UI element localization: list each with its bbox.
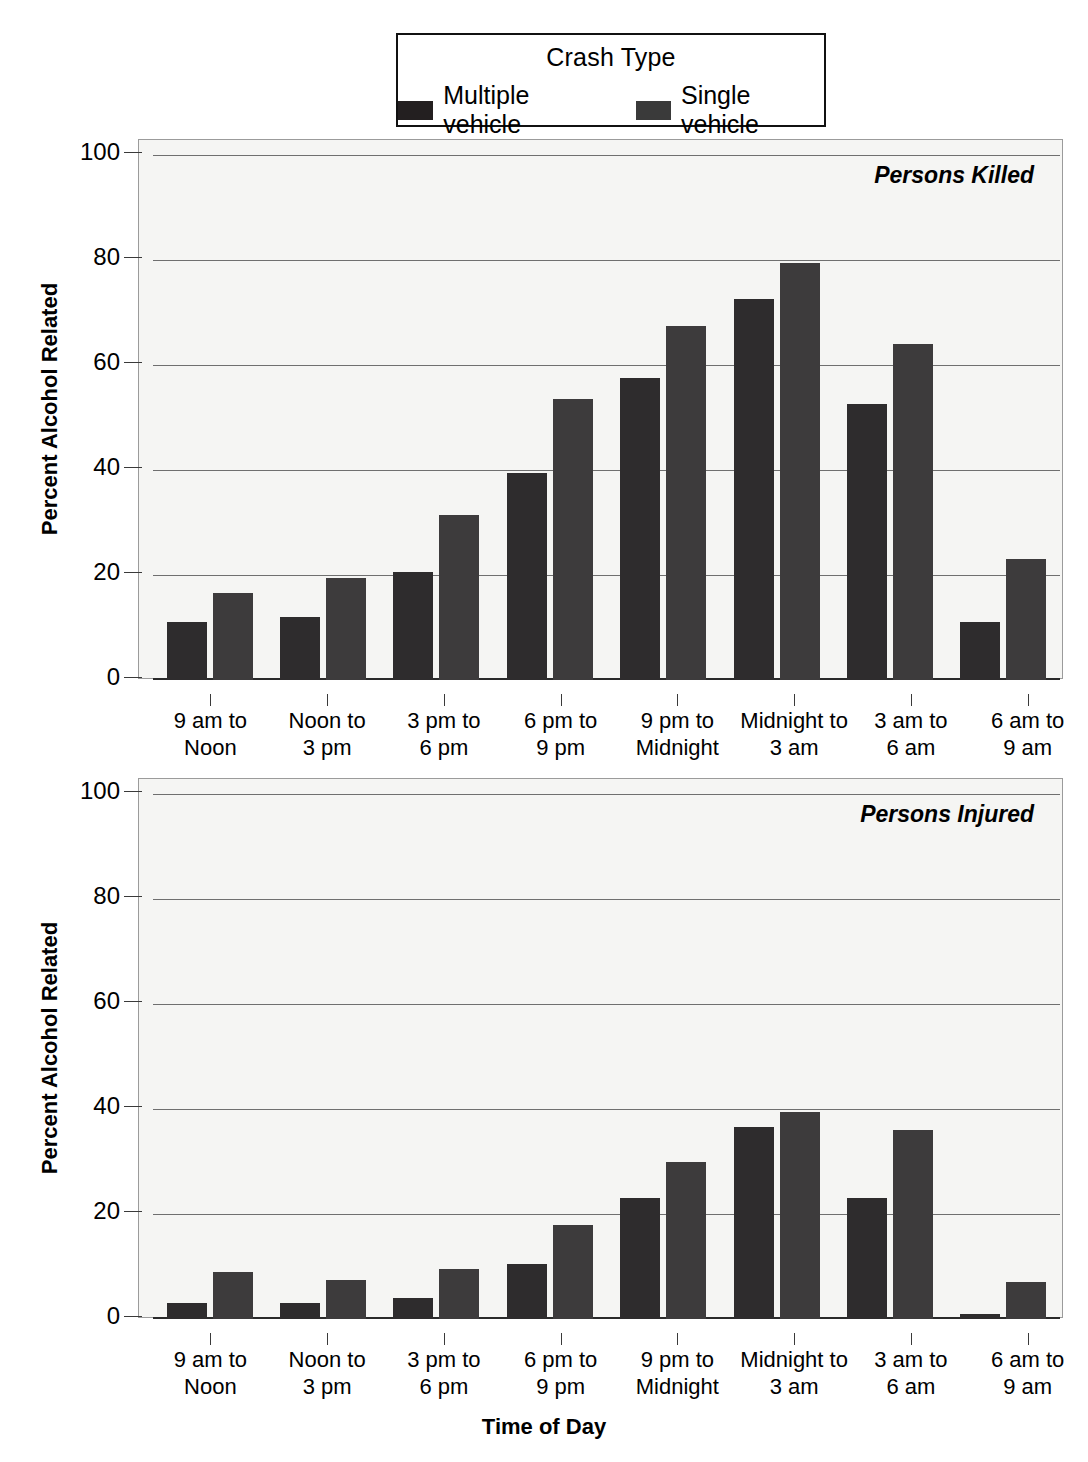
bar-injured-6-single-vehicle: [893, 1130, 933, 1319]
x-axis-labels-injured: 9 am toNoonNoon to3 pm3 pm to6 pm6 pm to…: [152, 1346, 1086, 1400]
x-axis-label-line1: Noon to: [269, 1346, 386, 1373]
bar-injured-1-single-vehicle: [326, 1280, 366, 1319]
bar-injured-7-multiple-vehicle: [960, 1314, 1000, 1319]
y-axis-label-killed: Percent Alcohol Related: [37, 283, 63, 535]
bar-group-killed-4: [607, 155, 720, 680]
bar-killed-2-multiple-vehicle: [393, 572, 433, 680]
bar-group-killed-3: [493, 155, 606, 680]
x-axis-label-line2: 3 am: [736, 1373, 853, 1400]
x-axis-label-line2: 9 pm: [502, 734, 619, 761]
bar-killed-0-single-vehicle: [213, 593, 253, 680]
x-axis-label-line1: 3 pm to: [386, 707, 503, 734]
x-axis-label-line1: 3 am to: [853, 707, 970, 734]
bar-injured-4-single-vehicle: [666, 1162, 706, 1320]
x-axis-label-line1: 3 pm to: [386, 1346, 503, 1373]
y-tick-dash-20-injured: [124, 1211, 142, 1212]
x-tick-mark-injured-0: [210, 1333, 211, 1345]
x-axis-label-line2: 3 pm: [269, 734, 386, 761]
bar-killed-1-single-vehicle: [326, 578, 366, 680]
x-tick-killed-0: [152, 694, 269, 706]
x-tick-killed-5: [736, 694, 853, 706]
x-tick-mark-killed-6: [911, 694, 912, 706]
x-axis-label-line2: 9 am: [969, 734, 1086, 761]
y-tick-dash-20-killed: [124, 572, 142, 573]
bar-killed-1-multiple-vehicle: [280, 617, 320, 680]
y-axis-label-wrap-killed: Percent Alcohol Related: [30, 139, 70, 679]
x-tick-mark-killed-3: [561, 694, 562, 706]
legend-entries: Multiple vehicle Single vehicle: [398, 81, 824, 139]
x-axis-label-killed-1: Noon to3 pm: [269, 707, 386, 761]
x-axis-label-killed-5: Midnight to3 am: [736, 707, 853, 761]
x-axis-label-injured-7: 6 am to9 am: [969, 1346, 1086, 1400]
bar-group-killed-2: [380, 155, 493, 680]
x-tick-injured-2: [386, 1333, 503, 1345]
x-axis-label-killed-4: 9 pm toMidnight: [619, 707, 736, 761]
x-tick-killed-6: [853, 694, 970, 706]
bar-group-injured-6: [833, 794, 946, 1319]
bar-group-injured-3: [493, 794, 606, 1319]
bar-group-injured-7: [947, 794, 1060, 1319]
x-axis-label-line2: 6 am: [853, 734, 970, 761]
y-tick-100-killed: 100: [0, 138, 120, 166]
y-tick-dash-0-killed: [124, 677, 142, 678]
bar-killed-7-single-vehicle: [1006, 559, 1046, 680]
x-axis-label-line1: Noon to: [269, 707, 386, 734]
bar-group-killed-6: [833, 155, 946, 680]
x-tick-killed-1: [269, 694, 386, 706]
x-tick-mark-injured-7: [1028, 1333, 1029, 1345]
bar-injured-2-multiple-vehicle: [393, 1298, 433, 1319]
bar-group-killed-7: [947, 155, 1060, 680]
x-axis-label-line2: Midnight: [619, 1373, 736, 1400]
x-axis-labels-killed: 9 am toNoonNoon to3 pm3 pm to6 pm6 pm to…: [152, 707, 1086, 761]
bar-injured-2-single-vehicle: [439, 1269, 479, 1319]
y-tick-40-injured: 40: [0, 1092, 120, 1120]
x-axis-ticks-injured: [152, 1333, 1086, 1345]
y-tick-0-killed: 0: [0, 663, 120, 691]
bar-group-injured-5: [720, 794, 833, 1319]
y-tick-dash-0-injured: [124, 1316, 142, 1317]
x-axis-label-line1: 9 am to: [152, 707, 269, 734]
legend-label-single-vehicle: Single vehicle: [681, 81, 824, 139]
x-tick-mark-killed-7: [1028, 694, 1029, 706]
bar-injured-3-multiple-vehicle: [507, 1264, 547, 1319]
x-tick-mark-killed-2: [444, 694, 445, 706]
bar-injured-5-multiple-vehicle: [734, 1127, 774, 1319]
x-tick-mark-injured-6: [911, 1333, 912, 1345]
x-axis-label-killed-6: 3 am to6 am: [853, 707, 970, 761]
bar-injured-7-single-vehicle: [1006, 1282, 1046, 1319]
x-axis-label-injured-1: Noon to3 pm: [269, 1346, 386, 1400]
x-axis-label-injured-6: 3 am to6 am: [853, 1346, 970, 1400]
x-tick-killed-4: [619, 694, 736, 706]
bar-killed-3-single-vehicle: [553, 399, 593, 680]
x-axis-label-injured-0: 9 am toNoon: [152, 1346, 269, 1400]
x-tick-killed-7: [969, 694, 1086, 706]
x-axis-label-killed-3: 6 pm to9 pm: [502, 707, 619, 761]
x-axis-label-line2: 3 pm: [269, 1373, 386, 1400]
bar-killed-6-single-vehicle: [893, 344, 933, 680]
x-tick-injured-4: [619, 1333, 736, 1345]
x-tick-mark-killed-5: [794, 694, 795, 706]
x-axis-label-line1: 9 pm to: [619, 707, 736, 734]
bar-injured-0-multiple-vehicle: [167, 1303, 207, 1319]
y-tick-80-killed: 80: [0, 243, 120, 271]
x-axis-label-line1: 6 am to: [969, 1346, 1086, 1373]
legend-swatch-single-vehicle-icon: [636, 101, 671, 120]
y-tick-0-injured: 0: [0, 1302, 120, 1330]
x-tick-killed-2: [386, 694, 503, 706]
x-tick-killed-3: [502, 694, 619, 706]
x-axis-label-killed-0: 9 am toNoon: [152, 707, 269, 761]
x-axis-label-line1: Midnight to: [736, 1346, 853, 1373]
y-tick-20-injured: 20: [0, 1197, 120, 1225]
y-tick-dash-60-injured: [124, 1001, 142, 1002]
legend-title: Crash Type: [398, 43, 824, 72]
y-tick-60-killed: 60: [0, 348, 120, 376]
x-axis-label-injured-3: 6 pm to9 pm: [502, 1346, 619, 1400]
x-axis-label-killed-7: 6 am to9 am: [969, 707, 1086, 761]
bar-killed-2-single-vehicle: [439, 515, 479, 680]
y-tick-80-injured: 80: [0, 882, 120, 910]
x-axis-label-injured-2: 3 pm to6 pm: [386, 1346, 503, 1400]
x-tick-injured-5: [736, 1333, 853, 1345]
y-tick-60-injured: 60: [0, 987, 120, 1015]
y-axis-label-wrap-injured: Percent Alcohol Related: [30, 778, 70, 1318]
x-axis-label-line2: Noon: [152, 1373, 269, 1400]
